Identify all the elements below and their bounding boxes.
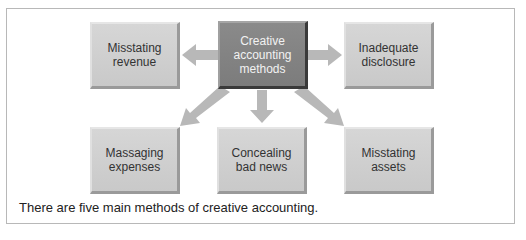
node-label: Misstating assets: [361, 146, 415, 174]
node-inadequate-disclosure: Inadequate disclosure: [344, 22, 434, 89]
arrow-to-concealing-bad-news: [250, 90, 274, 123]
node-misstating-revenue: Misstating revenue: [90, 22, 180, 89]
node-label: Concealing bad news: [231, 146, 291, 174]
node-creative-accounting-methods: Creative accounting methods: [218, 21, 308, 89]
arrow-to-massaging-expenses: [180, 86, 230, 126]
node-concealing-bad-news: Concealing bad news: [217, 127, 307, 194]
node-label: Misstating revenue: [107, 41, 161, 69]
node-misstating-assets: Misstating assets: [344, 127, 434, 194]
node-massaging-expenses: Massaging expenses: [90, 127, 180, 194]
arrow-to-inadequate-disclosure: [306, 44, 342, 66]
node-label: Inadequate disclosure: [358, 41, 418, 69]
node-label: Massaging expenses: [105, 146, 163, 174]
node-label: Creative accounting methods: [233, 34, 291, 76]
arrow-to-misstating-revenue: [182, 44, 218, 66]
arrow-to-misstating-assets: [294, 86, 344, 126]
diagram-caption: There are five main methods of creative …: [19, 200, 318, 215]
